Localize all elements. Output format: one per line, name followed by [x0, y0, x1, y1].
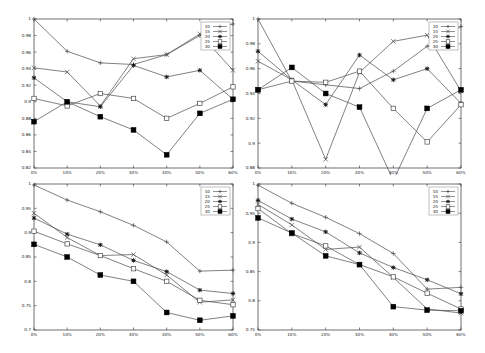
chart-panel-top-right: 0.880.90.920.940.960.9810%10%20%30%40%50… [245, 0, 485, 175]
y-tick-label: 0.8 [248, 298, 255, 303]
y-tick-label: 0.88 [22, 116, 32, 121]
y-tick-label: 0.75 [22, 303, 32, 308]
y-tick-label: 0.95 [22, 206, 32, 211]
series-15 [256, 202, 463, 315]
legend: 1015202530 [429, 187, 458, 215]
y-tick-label: 0.9 [248, 240, 255, 245]
series-15 [256, 33, 463, 162]
x-tick-label: 0% [31, 332, 38, 337]
legend-label: 30 [433, 209, 439, 214]
line-chart: 0.70.750.80.850.90.9510%10%20%30%40%50%6… [0, 175, 245, 353]
y-tick-label: 0.98 [22, 33, 32, 38]
legend-label: 30 [433, 44, 439, 49]
x-tick-label: 10% [287, 332, 296, 337]
y-tick-label: 1 [252, 181, 255, 186]
chart-panel-bottom-left: 0.70.750.80.850.90.9510%10%20%30%40%50%6… [0, 175, 245, 353]
x-tick-label: 60% [456, 332, 465, 337]
legend: 1015202530 [429, 22, 458, 50]
x-tick-label: 50% [195, 332, 204, 337]
chart-panel-top-left: 0.820.840.860.880.90.920.940.960.9810%10… [0, 0, 245, 175]
x-tick-label: 20% [321, 332, 330, 337]
series-20 [256, 49, 463, 107]
y-axis: 0.880.90.920.940.960.981 [246, 16, 461, 170]
x-tick-label: 50% [423, 332, 432, 337]
y-tick-label: 0.86 [22, 132, 32, 137]
x-tick-label: 30% [129, 332, 138, 337]
x-tick-label: 40% [389, 332, 398, 337]
chart-panel-bottom-right: 0.750.80.850.90.9510%10%20%30%40%50%60%1… [245, 175, 485, 353]
legend-label: 30 [205, 44, 211, 49]
y-tick-label: 0.9 [24, 230, 31, 235]
legend: 1015202530 [201, 187, 230, 215]
y-tick-label: 1 [252, 16, 255, 21]
series-25 [32, 85, 235, 121]
x-tick-label: 40% [162, 332, 171, 337]
legend-label: 30 [205, 209, 211, 214]
y-tick-label: 0.92 [22, 83, 32, 88]
y-tick-label: 0.8 [24, 279, 31, 284]
y-tick-label: 0.92 [246, 116, 256, 121]
x-tick-label: 10% [63, 332, 72, 337]
y-tick-label: 1 [28, 16, 31, 21]
y-tick-label: 0.98 [246, 41, 256, 46]
y-tick-label: 0.96 [22, 50, 32, 55]
y-tick-label: 1 [28, 181, 31, 186]
series-25 [32, 229, 235, 307]
x-tick-label: 30% [355, 332, 364, 337]
y-tick-label: 0.9 [24, 99, 31, 104]
y-tick-label: 0.95 [246, 211, 256, 216]
y-tick-label: 0.94 [246, 91, 256, 96]
series-30 [256, 65, 464, 175]
series-30 [32, 97, 236, 157]
legend: 1015202530 [201, 22, 230, 50]
x-tick-label: 0% [255, 332, 262, 337]
y-tick-label: 0.96 [246, 66, 256, 71]
series-20 [32, 63, 235, 109]
y-tick-label: 0.85 [246, 269, 256, 274]
line-chart: 0.750.80.850.90.9510%10%20%30%40%50%60%1… [245, 175, 485, 353]
y-tick-label: 0.84 [22, 149, 32, 154]
line-chart: 0.820.840.860.880.90.920.940.960.9810%10… [0, 0, 245, 175]
y-tick-label: 0.94 [22, 66, 32, 71]
y-tick-label: 0.85 [22, 254, 32, 259]
y-tick-label: 0.9 [248, 141, 255, 146]
line-chart: 0.880.90.920.940.960.9810%10%20%30%40%50… [245, 0, 485, 175]
x-tick-label: 20% [96, 332, 105, 337]
x-tick-label: 60% [228, 332, 237, 337]
series-30 [32, 242, 236, 323]
